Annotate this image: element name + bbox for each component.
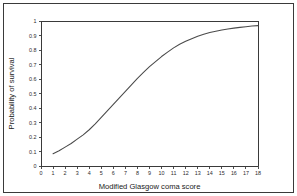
x-tick-label: 15	[219, 170, 225, 176]
y-tick-label: 0	[34, 163, 37, 169]
y-tick-label: 0.8	[29, 47, 37, 53]
y-tick-label: 0.1	[29, 149, 37, 155]
y-tick-label: 0.7	[29, 62, 37, 68]
y-tick-label: 0.9	[29, 33, 37, 39]
x-axis-ticks: 0123456789101112131415161718	[40, 166, 262, 176]
y-tick-label: 0.5	[29, 91, 37, 97]
figure-container: 00.10.20.30.40.50.60.70.80.91 0123456789…	[0, 0, 297, 196]
y-axis-title: Probability of survival	[7, 57, 16, 129]
x-tick-label: 7	[124, 170, 127, 176]
survival-curve	[53, 26, 258, 154]
x-tick-label: 3	[76, 170, 79, 176]
x-tick-label: 10	[159, 170, 165, 176]
y-tick-label: 0.3	[29, 120, 37, 126]
x-tick-label: 2	[64, 170, 67, 176]
y-tick-label: 0.6	[29, 76, 37, 82]
x-tick-label: 18	[255, 170, 261, 176]
y-axis-ticks: 00.10.20.30.40.50.60.70.80.91	[29, 18, 41, 169]
x-tick-label: 13	[195, 170, 201, 176]
x-tick-label: 11	[171, 170, 177, 176]
x-tick-label: 12	[183, 170, 189, 176]
y-tick-label: 1	[34, 18, 37, 24]
y-tick-label: 0.2	[29, 134, 37, 140]
plot-frame	[41, 21, 258, 166]
x-tick-label: 5	[100, 170, 103, 176]
x-tick-label: 1	[52, 170, 55, 176]
x-tick-label: 6	[112, 170, 115, 176]
x-tick-label: 16	[231, 170, 237, 176]
x-tick-label: 0	[40, 170, 43, 176]
x-tick-label: 14	[207, 170, 213, 176]
x-tick-label: 9	[148, 170, 151, 176]
survival-probability-chart: 00.10.20.30.40.50.60.70.80.91 0123456789…	[0, 0, 297, 196]
x-tick-label: 8	[136, 170, 139, 176]
x-axis-title: Modified Glasgow coma score	[99, 182, 201, 191]
y-tick-label: 0.4	[29, 105, 37, 111]
x-tick-label: 17	[243, 170, 249, 176]
x-tick-label: 4	[88, 170, 91, 176]
